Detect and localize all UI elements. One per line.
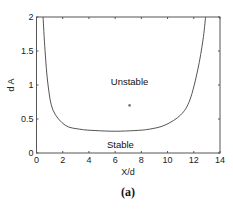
y-tick-label: 0.5 [21,114,34,124]
operating-point-marker [128,104,131,107]
x-tick-label: 12 [189,155,199,165]
stable-region-label: Stable [107,139,134,150]
y-tick-label: 1 [28,80,33,90]
stability-chart: 02468101214 00.511.52 Unstable Stable X/… [0,0,233,211]
x-tick-label: 8 [139,155,144,165]
unstable-region-label: Unstable [111,76,149,87]
y-tick-labels: 00.511.52 [21,12,34,158]
x-tick-label: 4 [86,155,91,165]
x-axis-label: X/d [121,167,135,177]
x-tick-labels: 02468101214 [34,155,225,165]
y-tick-label: 0 [28,148,33,158]
x-tick-label: 10 [163,155,173,165]
x-tick-label: 6 [113,155,118,165]
data-points [128,104,131,107]
y-axis-label: d A [6,78,16,91]
y-tick-label: 2 [28,12,33,22]
y-tick-label: 1.5 [21,46,34,56]
x-tick-label: 0 [34,155,39,165]
figure-caption: (a) [121,185,135,199]
x-tick-label: 14 [215,155,225,165]
x-tick-label: 2 [60,155,65,165]
